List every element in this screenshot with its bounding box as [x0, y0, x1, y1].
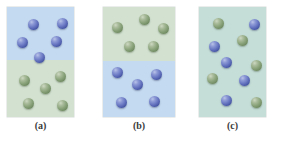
- blue-sphere: [112, 67, 123, 78]
- blue-sphere: [28, 19, 39, 30]
- green-sphere: [251, 97, 262, 108]
- green-sphere: [237, 35, 248, 46]
- green-sphere: [207, 73, 218, 84]
- green-sphere: [139, 14, 150, 25]
- green-sphere: [251, 60, 262, 71]
- green-sphere: [23, 98, 34, 109]
- blue-sphere: [249, 19, 260, 30]
- green-sphere: [40, 83, 51, 94]
- blue-sphere: [209, 41, 220, 52]
- green-sphere: [124, 41, 135, 52]
- green-sphere: [158, 23, 169, 34]
- blue-sphere: [132, 79, 143, 90]
- panel-c-label: (c): [199, 120, 266, 131]
- blue-sphere: [221, 57, 232, 68]
- panel-c: [199, 7, 266, 117]
- green-sphere: [19, 75, 30, 86]
- panel-a: [7, 7, 74, 117]
- blue-sphere: [221, 95, 232, 106]
- panel-a-label: (a): [7, 120, 74, 131]
- blue-sphere: [17, 37, 28, 48]
- blue-sphere: [34, 52, 45, 63]
- figure-diffusion-panels: (a)(b)(c): [0, 0, 282, 145]
- blue-sphere: [151, 69, 162, 80]
- green-sphere: [148, 41, 159, 52]
- blue-sphere: [57, 18, 68, 29]
- panel-b: [103, 7, 175, 117]
- green-sphere: [213, 18, 224, 29]
- blue-sphere: [116, 97, 127, 108]
- green-sphere: [112, 22, 123, 33]
- green-sphere: [57, 100, 68, 111]
- blue-sphere: [149, 96, 160, 107]
- blue-sphere: [239, 75, 250, 86]
- blue-sphere: [51, 36, 62, 47]
- panel-b-label: (b): [103, 120, 175, 131]
- green-sphere: [55, 71, 66, 82]
